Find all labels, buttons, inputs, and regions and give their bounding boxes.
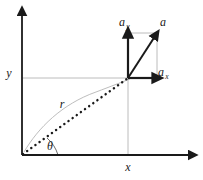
a-resultant-arrow [128,37,155,78]
a-x-label-base: a [158,65,164,79]
a-y-label-group: a y [119,15,130,31]
a-vector-label: a [160,15,166,29]
theta-angle-label: θ [47,139,53,153]
vector-diagram-figure: y x r θ a a y a x [0,0,203,180]
y-axis-label: y [5,66,12,80]
axes [22,14,190,155]
acceleration-vectors [128,36,155,78]
r-vector-label: r [60,97,65,111]
x-axis-label: x [124,160,131,174]
diagram-canvas: y x r θ a a y a x [0,0,203,180]
a-x-label-subscript: x [164,72,169,81]
a-x-label-group: a x [158,65,169,81]
a-y-label-subscript: y [125,22,130,31]
a-y-label-base: a [119,15,125,29]
r-vector-dotted [23,78,128,154]
